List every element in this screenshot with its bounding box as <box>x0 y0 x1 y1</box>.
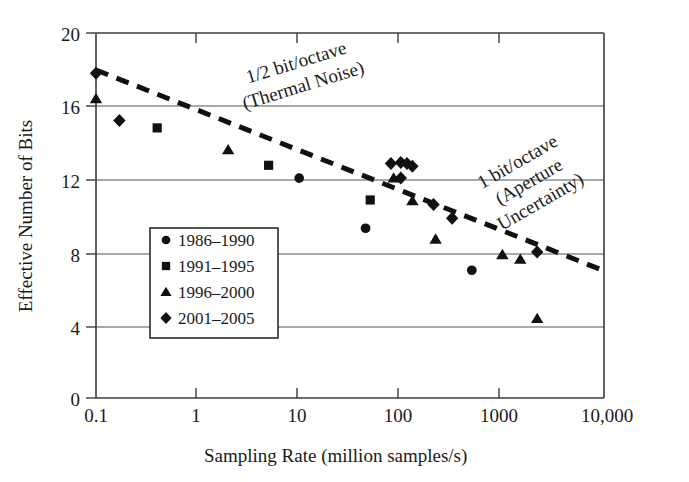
enob-vs-sampling-rate-chart: 20 16 12 8 4 0 0.1 1 10 100 1000 10,000 <box>0 0 689 482</box>
y-ticklabel-20: 20 <box>61 24 80 45</box>
x-ticklabel-10: 10 <box>288 405 307 426</box>
legend-label-1996–2000: 1996–2000 <box>178 283 255 302</box>
data-point-1986-1990-0 <box>294 173 304 183</box>
data-point-2001-2005-1 <box>113 114 125 127</box>
x-axis-title: Sampling Rate (million samples/s) <box>204 445 467 467</box>
legend-label-2001–2005: 2001–2005 <box>178 309 255 328</box>
legend: 1986–19901991–19951996–20002001–2005 <box>150 228 278 338</box>
data-point-1996-2000-3 <box>406 195 418 205</box>
x-ticklabel-100: 100 <box>384 405 413 426</box>
data-point-1991-1995-0 <box>153 123 162 132</box>
y-ticklabel-8: 8 <box>71 245 81 266</box>
data-point-2001-2005-8 <box>446 212 458 225</box>
y-ticklabels: 20 16 12 8 4 0 <box>61 24 81 410</box>
y-ticklabel-0: 0 <box>71 389 81 410</box>
annotation-thermal-noise: 1/2 bit/octave (Thermal Noise) <box>233 34 367 115</box>
legend-marker-square <box>162 262 170 270</box>
y-ticklabel-12: 12 <box>61 171 80 192</box>
y-ticklabel-16: 16 <box>61 97 80 118</box>
series-1986-1990 <box>294 173 476 275</box>
y-ticks <box>86 33 96 398</box>
data-point-1996-2000-7 <box>531 313 543 323</box>
x-ticklabels: 0.1 1 10 100 1000 10,000 <box>84 405 633 426</box>
x-ticklabel-1: 1 <box>191 405 201 426</box>
data-point-2001-2005-9 <box>531 245 543 258</box>
data-point-1991-1995-2 <box>366 195 375 204</box>
x-ticklabel-0.1: 0.1 <box>84 405 108 426</box>
legend-label-1986–1990: 1986–1990 <box>178 231 255 250</box>
legend-marker-circle <box>162 236 171 245</box>
chart-svg: 20 16 12 8 4 0 0.1 1 10 100 1000 10,000 <box>0 0 689 482</box>
annotation-aperture-uncertainty: 1 bit/octave (Aperture Uncertainty) <box>470 128 587 235</box>
data-point-1996-2000-1 <box>222 144 234 154</box>
data-point-1996-2000-6 <box>514 253 526 263</box>
data-point-1996-2000-0 <box>90 93 102 103</box>
y-ticklabel-4: 4 <box>71 318 81 339</box>
data-point-2001-2005-6 <box>395 172 407 185</box>
data-point-2001-2005-2 <box>385 157 397 170</box>
data-point-1986-1990-2 <box>467 265 477 275</box>
legend-label-1991–1995: 1991–1995 <box>178 257 255 276</box>
x-ticklabel-1000: 1000 <box>480 405 518 426</box>
data-point-1996-2000-4 <box>429 233 441 243</box>
data-point-1986-1990-1 <box>361 223 371 233</box>
data-point-2001-2005-0 <box>90 67 102 80</box>
x-ticklabel-10000: 10,000 <box>581 405 633 426</box>
data-point-1991-1995-1 <box>264 161 273 170</box>
y-axis-title: Effective Number of Bits <box>15 120 36 312</box>
